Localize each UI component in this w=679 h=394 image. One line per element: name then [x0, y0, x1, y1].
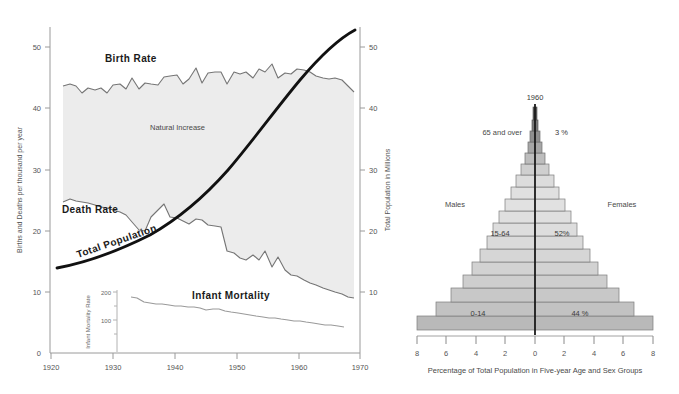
inset-tick-100: 100 — [101, 318, 112, 324]
pyr-x-tick-6r: 6 — [621, 349, 625, 358]
y-tick-40: 40 — [33, 104, 41, 113]
pct-0-14: 44 % — [571, 309, 588, 318]
x-tick-1930: 1930 — [105, 363, 122, 372]
x-tick-1960: 1960 — [291, 363, 308, 372]
pyramid-x-axis: 8 6 4 2 0 2 4 6 8 — [415, 336, 655, 358]
pyr-x-tick-0: 0 — [533, 349, 537, 358]
pyramid-caption: Percentage of Total Population in Five-y… — [428, 366, 643, 375]
pyr-x-tick-4l: 4 — [474, 349, 478, 358]
pyramid-year-title: 1960 — [527, 93, 544, 102]
y2-tick-40: 40 — [369, 104, 377, 113]
total-population-label: Total Population — [75, 222, 158, 260]
left-x-ticks: 1920 1930 1940 1950 1960 1970 — [43, 353, 369, 372]
y-tick-20: 20 — [33, 227, 41, 236]
y2-tick-10: 10 — [369, 288, 377, 297]
y-tick-50: 50 — [33, 43, 41, 52]
pyr-x-tick-8r: 8 — [651, 349, 655, 358]
y2-tick-20: 20 — [369, 227, 377, 236]
infant-mortality-inset: 200 100 Infant Mortality Rate — [85, 290, 117, 352]
infant-mortality-line — [131, 297, 344, 327]
pct-15-64: 52% — [554, 229, 569, 238]
y2-tick-50: 50 — [369, 43, 377, 52]
right-y-ticks: 50 40 30 20 10 — [360, 43, 377, 297]
inset-tick-200: 200 — [101, 290, 112, 296]
right-y-axis-title: Total Population in Millions — [384, 148, 392, 231]
x-tick-1970: 1970 — [352, 363, 369, 372]
y-tick-10: 10 — [33, 288, 41, 297]
natural-increase-area — [63, 64, 354, 298]
x-tick-1940: 1940 — [167, 363, 184, 372]
left-y-ticks: 50 40 30 20 10 0 — [33, 43, 50, 358]
age-65-and-over-label: 65 and over — [482, 128, 522, 137]
population-pyramid: 8 6 4 2 0 2 4 6 8 Percentage of Total Po… — [400, 0, 679, 394]
infant-mortality-label: Infant Mortality — [192, 290, 270, 301]
pyr-x-tick-8l: 8 — [415, 349, 419, 358]
age-0-14-label: 0-14 — [470, 309, 485, 318]
pyr-x-tick-2l: 2 — [503, 349, 507, 358]
left-y-axis-title: Births and Deaths per thousand per year — [16, 126, 24, 253]
y-tick-0: 0 — [37, 349, 41, 358]
pyr-x-tick-4r: 4 — [592, 349, 596, 358]
pct-65-and-over: 3 % — [555, 128, 568, 137]
y-tick-30: 30 — [33, 166, 41, 175]
inset-axis-title: Infant Mortality Rate — [85, 294, 91, 348]
pyr-x-tick-6l: 6 — [444, 349, 448, 358]
figure-root: 50 40 30 20 10 0 50 40 30 20 10 — [0, 0, 679, 394]
males-label: Males — [445, 200, 465, 209]
y2-tick-30: 30 — [369, 166, 377, 175]
females-label: Females — [608, 200, 637, 209]
x-tick-1950: 1950 — [229, 363, 246, 372]
age-15-64-label: 15-64 — [490, 229, 509, 238]
pyr-x-tick-2r: 2 — [562, 349, 566, 358]
natural-increase-label: Natural Increase — [150, 123, 205, 132]
x-tick-1920: 1920 — [43, 363, 60, 372]
death-rate-label: Death Rate — [62, 204, 118, 215]
birth-rate-label: Birth Rate — [105, 53, 157, 64]
vital-rates-chart: 50 40 30 20 10 0 50 40 30 20 10 — [0, 0, 400, 394]
